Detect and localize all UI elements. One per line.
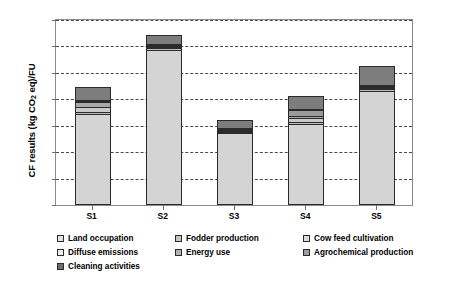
- y-axis-title-sub: 2: [30, 95, 37, 99]
- legend-label: Diffuse emissions: [68, 248, 138, 257]
- legend-item[interactable]: Land occupation: [57, 234, 175, 243]
- legend-swatch: [175, 235, 182, 242]
- legend-swatch: [57, 249, 64, 256]
- x-axis-tick-label: S2: [158, 211, 168, 221]
- legend-label: Cow feed cultivation: [314, 234, 394, 243]
- bar-segment[interactable]: [218, 121, 252, 128]
- bar-column[interactable]: [288, 96, 324, 205]
- legend-swatch: [57, 263, 64, 270]
- y-axis-tick-mark: [52, 205, 56, 206]
- bar-segment[interactable]: [360, 92, 394, 204]
- x-axis-tick-label: S1: [86, 211, 96, 221]
- y-axis-title: CF results (kg CO2 eq)/FU: [26, 36, 37, 206]
- bar-segment[interactable]: [218, 134, 252, 204]
- legend-swatch: [303, 249, 310, 256]
- legend-label: Land occupation: [68, 234, 134, 243]
- legend-swatch: [57, 235, 64, 242]
- legend-label: Energy use: [186, 248, 230, 257]
- x-axis-tick-mark: [376, 205, 377, 210]
- bar-segment[interactable]: [289, 125, 323, 204]
- bar-segment[interactable]: [147, 51, 181, 204]
- chart-legend: Land occupationFodder productionCow feed…: [57, 231, 429, 273]
- legend-item[interactable]: Energy use: [175, 248, 303, 257]
- plot-area: 0.05.010.015.020.025.030.035.0 S1S2S3S4S…: [55, 19, 413, 206]
- bar-segment[interactable]: [360, 67, 394, 86]
- y-axis-title-pre: CF results (kg CO: [26, 99, 37, 178]
- legend-label: Cleaning activities: [68, 262, 140, 271]
- x-axis-tick-label: S4: [300, 211, 310, 221]
- x-axis-tick-label: S5: [371, 211, 381, 221]
- legend-item[interactable]: Fodder production: [175, 234, 303, 243]
- legend-item[interactable]: Agrochemical production: [303, 248, 429, 257]
- bar-series-layer: S1S2S3S4S5: [56, 20, 412, 205]
- legend-item[interactable]: Cleaning activities: [57, 262, 175, 271]
- bar-segment[interactable]: [76, 115, 110, 204]
- bar-segment[interactable]: [76, 88, 110, 101]
- legend-swatch: [303, 235, 310, 242]
- legend-swatch: [175, 249, 182, 256]
- x-axis-tick-mark: [305, 205, 306, 210]
- x-axis-tick-mark: [163, 205, 164, 210]
- bar-column[interactable]: [146, 35, 182, 205]
- bar-column[interactable]: [217, 120, 253, 205]
- bar-column[interactable]: [75, 87, 111, 205]
- legend-item[interactable]: Cow feed cultivation: [303, 234, 429, 243]
- bar-column[interactable]: [359, 66, 395, 205]
- legend-item[interactable]: Diffuse emissions: [57, 248, 175, 257]
- legend-label: Fodder production: [186, 234, 259, 243]
- x-axis-tick-mark: [92, 205, 93, 210]
- legend-label: Agrochemical production: [314, 248, 413, 257]
- bar-segment[interactable]: [289, 97, 323, 110]
- y-axis-title-post: eq)/FU: [26, 64, 37, 96]
- x-axis-tick-label: S3: [229, 211, 239, 221]
- bar-segment[interactable]: [147, 36, 181, 46]
- chart-figure: CF results (kg CO2 eq)/FU 0.05.010.015.0…: [0, 0, 450, 286]
- x-axis-tick-mark: [234, 205, 235, 210]
